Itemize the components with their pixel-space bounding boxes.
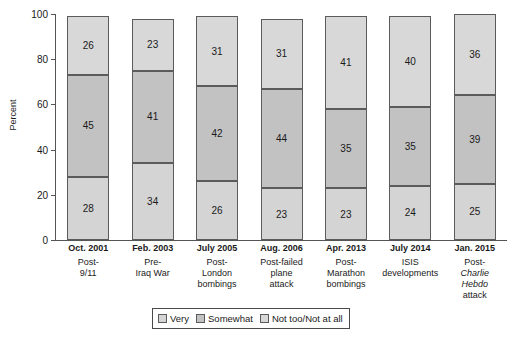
x-axis-description-line: Post- — [335, 257, 356, 267]
x-axis-label-group: Jan. 2015Post-CharlieHebdoattack — [437, 243, 513, 301]
plot-area: 2845263441232642312344312335412435402539… — [56, 14, 507, 240]
x-axis-description-line: bombings — [326, 279, 365, 289]
legend-item: Very — [158, 313, 189, 324]
bar-segment-somewhat: 41 — [132, 71, 174, 164]
bar-stack: 253936 — [454, 14, 496, 240]
bar-segment-somewhat: 35 — [389, 107, 431, 186]
bar-segment-value: 35 — [340, 143, 351, 154]
bar-segment-nottoo: 36 — [454, 14, 496, 95]
bar-segment-value: 35 — [405, 141, 416, 152]
bar-segment-value: 23 — [340, 209, 351, 220]
y-tick-label: 40 — [37, 144, 48, 155]
bar-segment-value: 31 — [212, 46, 223, 57]
legend-item: Somewhat — [196, 313, 253, 324]
x-axis-description-line: developments — [382, 268, 438, 278]
bar-segment-nottoo: 31 — [196, 16, 238, 86]
bar-segment-very: 28 — [67, 177, 109, 240]
x-axis-description-line: Hebdo — [462, 279, 489, 289]
x-axis-description-line: Charlie — [461, 268, 490, 278]
x-axis-description-line: attack — [269, 279, 293, 289]
bar-segment-nottoo: 23 — [132, 19, 174, 71]
y-tick-label: 100 — [31, 9, 48, 20]
x-axis-description-line: 9/11 — [80, 268, 97, 278]
x-axis-description-line: London — [202, 268, 232, 278]
bar-segment-value: 40 — [405, 56, 416, 67]
page-bleed-text — [150, 0, 510, 7]
bar-stack: 243540 — [389, 14, 431, 240]
bar-segment-value: 26 — [212, 205, 223, 216]
bar-segment-somewhat: 44 — [261, 89, 303, 188]
bar-stack: 264231 — [196, 14, 238, 240]
legend-swatch-icon — [158, 314, 167, 323]
bar-segment-value: 41 — [340, 57, 351, 68]
bar-stack: 284526 — [67, 14, 109, 240]
x-axis-description-line: Post- — [78, 257, 99, 267]
bar-segment-value: 26 — [83, 40, 94, 51]
bar-segment-value: 28 — [83, 203, 94, 214]
bar-segment-value: 23 — [276, 209, 287, 220]
bar-segment-value: 36 — [469, 49, 480, 60]
bar-segment-somewhat: 45 — [67, 75, 109, 177]
x-axis-labels: Oct. 2001Post-9/11Feb. 2003Pre-Iraq WarJ… — [56, 243, 507, 313]
bar-segment-somewhat: 39 — [454, 95, 496, 183]
bar-segment-nottoo: 31 — [261, 19, 303, 89]
legend-swatch-icon — [260, 314, 269, 323]
bar-segment-very: 26 — [196, 181, 238, 240]
bar-stack: 233541 — [325, 14, 367, 240]
bar-segment-very: 25 — [454, 184, 496, 241]
bar-segment-very: 23 — [325, 188, 367, 240]
bar-segment-value: 25 — [469, 206, 480, 217]
x-axis-description-line: Post-failed — [260, 257, 303, 267]
x-axis-description: Post-CharlieHebdoattack — [437, 257, 513, 301]
legend-swatch-icon — [196, 314, 205, 323]
x-axis-description-line: bombings — [198, 279, 237, 289]
bar-segment-value: 45 — [83, 120, 94, 131]
y-tick-label: 60 — [37, 99, 48, 110]
bar-segment-value: 39 — [469, 134, 480, 145]
x-axis-description-line: Marathon — [327, 268, 365, 278]
legend-label: Very — [170, 313, 189, 324]
bar-segment-value: 42 — [212, 128, 223, 139]
bar-segment-value: 34 — [147, 196, 158, 207]
y-axis-ticks: 020406080100 — [0, 14, 56, 239]
x-axis-date: Jan. 2015 — [437, 243, 513, 254]
bar-segment-nottoo: 26 — [67, 16, 109, 75]
x-axis-description-line: Pre- — [144, 257, 161, 267]
bar-segment-nottoo: 41 — [325, 16, 367, 109]
y-tick-label: 0 — [42, 235, 48, 246]
legend-label: Not too/Not at all — [272, 313, 343, 324]
bar-segment-somewhat: 35 — [325, 109, 367, 188]
legend-item: Not too/Not at all — [260, 313, 343, 324]
bar-segment-somewhat: 42 — [196, 86, 238, 181]
bar-segment-very: 23 — [261, 188, 303, 240]
x-axis-description-line: ISIS — [402, 257, 419, 267]
x-axis-line — [55, 240, 507, 241]
x-axis-description-line: plane — [270, 268, 292, 278]
x-axis-description-line: Iraq War — [136, 268, 170, 278]
bar-segment-value: 31 — [276, 48, 287, 59]
bar-segment-nottoo: 40 — [389, 16, 431, 106]
bar-segment-value: 24 — [405, 207, 416, 218]
bar-stack: 344123 — [132, 14, 174, 240]
x-axis-description-line: Post- — [464, 257, 485, 267]
x-axis-description-line: attack — [463, 290, 487, 300]
x-axis-description-line: Post- — [207, 257, 228, 267]
bar-stack: 234431 — [261, 14, 303, 240]
chart-legend: VerySomewhatNot too/Not at all — [152, 308, 350, 329]
y-tick-label: 20 — [37, 189, 48, 200]
bar-segment-value: 23 — [147, 39, 158, 50]
y-tick-label: 80 — [37, 54, 48, 65]
bar-segment-value: 41 — [147, 111, 158, 122]
chart-figure: Percent 020406080100 2845263441232642312… — [0, 0, 515, 341]
bar-segment-very: 34 — [132, 163, 174, 240]
bar-segment-value: 44 — [276, 133, 287, 144]
legend-label: Somewhat — [208, 313, 253, 324]
bar-segment-very: 24 — [389, 186, 431, 240]
